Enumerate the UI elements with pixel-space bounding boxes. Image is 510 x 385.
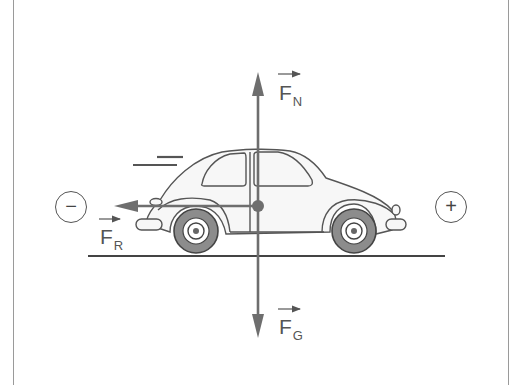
- force-symbol: F: [100, 225, 113, 248]
- front-wheel: [332, 209, 376, 253]
- force-symbol: F: [279, 315, 292, 338]
- diagram-frame: FN FG FR − +: [0, 0, 510, 385]
- motion-lines: [133, 157, 183, 165]
- front-bumper: [386, 219, 406, 230]
- force-subscript: N: [293, 94, 302, 109]
- positive-direction-sign: +: [435, 191, 467, 223]
- rear-light: [150, 199, 162, 206]
- force-symbol: F: [279, 81, 292, 104]
- force-subscript: R: [114, 238, 123, 253]
- rear-wheel: [174, 209, 218, 253]
- normal-force-label: FN: [279, 82, 302, 103]
- headlight: [392, 205, 400, 215]
- gravity-force-label: FG: [279, 316, 303, 337]
- force-subscript: G: [293, 328, 303, 343]
- resistance-force-label: FR: [100, 226, 123, 247]
- rear-bumper: [136, 219, 162, 230]
- center-of-mass-dot: [252, 200, 264, 212]
- negative-direction-sign: −: [55, 191, 87, 223]
